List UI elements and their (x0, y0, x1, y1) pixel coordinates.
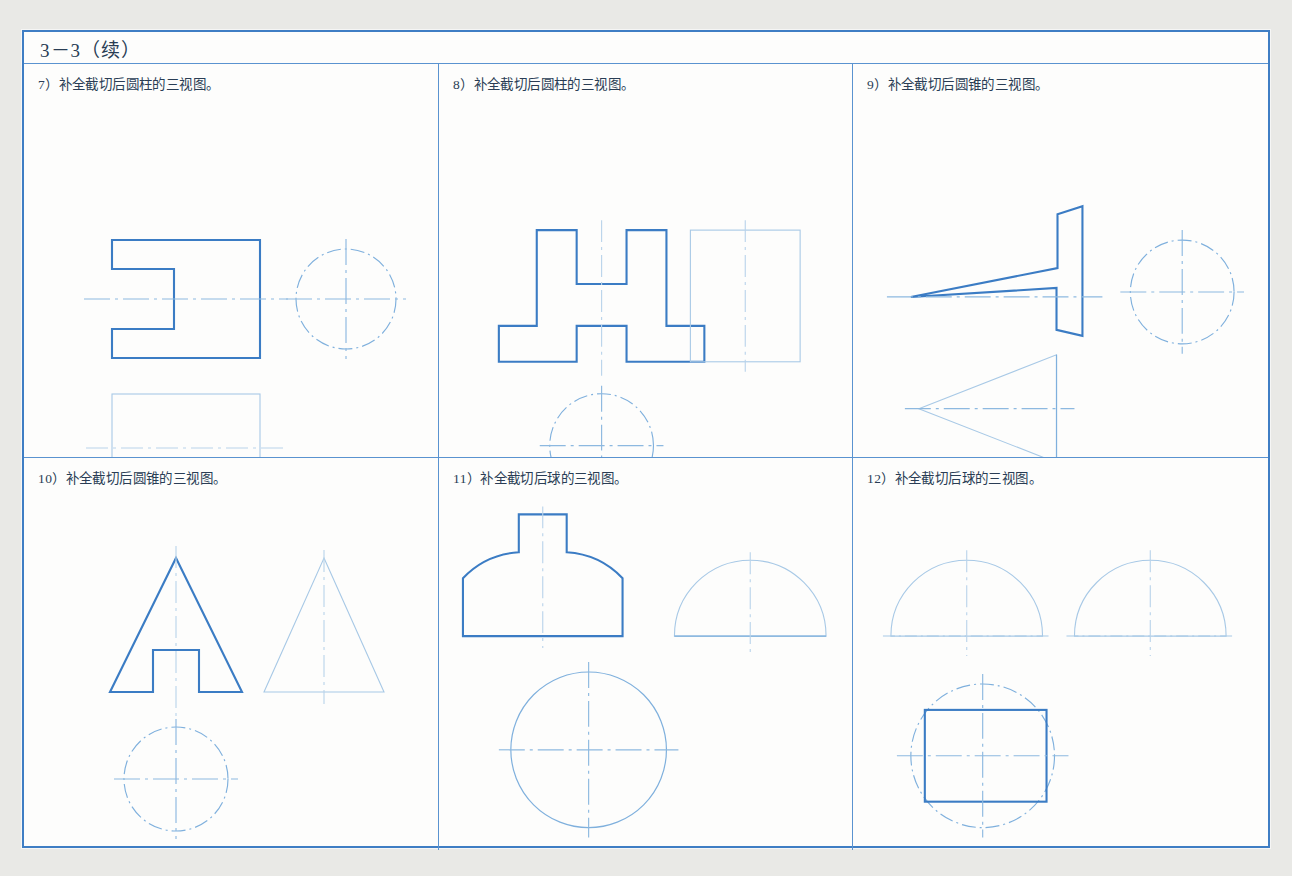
front-view-dome (883, 550, 1051, 656)
exercise-cell-12[interactable]: 12）补全截切后球的三视图。 (852, 457, 1268, 850)
worksheet-sheet: 3－3（续） 7）补全截切后圆柱的三视图。 (22, 30, 1270, 848)
front-view-cut-cone-profile (911, 206, 1083, 336)
exercise-drawing-7 (24, 94, 438, 457)
exercise-drawing-9 (853, 94, 1268, 457)
top-view-circle-with-rectangle (897, 674, 1069, 838)
exercise-label-9: 9）补全截切后圆锥的三视图。 (867, 73, 1048, 93)
top-view-rectangle (86, 394, 286, 457)
exercise-cell-9[interactable]: 9）补全截切后圆锥的三视图。 (852, 64, 1268, 457)
exercise-label-11: 11）补全截切后球的三视图。 (453, 467, 628, 487)
exercise-label-7: 7）补全截切后圆柱的三视图。 (38, 73, 219, 93)
exercise-drawing-12 (853, 488, 1268, 850)
side-view-triangle (264, 550, 384, 704)
side-view-dome (1066, 550, 1234, 656)
exercise-cell-11[interactable]: 11）补全截切后球的三视图。 (438, 457, 852, 850)
side-view-dome (674, 552, 826, 652)
exercise-cell-7[interactable]: 7）补全截切后圆柱的三视图。 (24, 64, 438, 457)
top-view-triangle (905, 355, 1075, 457)
exercise-cell-8[interactable]: 8）补全截切后圆柱的三视图。 (438, 64, 852, 457)
top-view-circle (499, 662, 679, 838)
exercise-cell-10[interactable]: 10）补全截切后圆锥的三视图。 (24, 457, 438, 850)
worksheet-title-bar: 3－3（续） (24, 32, 1268, 64)
exercise-label-12: 12）补全截切后球的三视图。 (867, 467, 1042, 487)
exercise-grid: 7）补全截切后圆柱的三视图。 (24, 64, 1268, 850)
exercise-label-8: 8）补全截切后圆柱的三视图。 (453, 73, 634, 93)
side-view-circle (286, 239, 406, 359)
exercise-drawing-8 (439, 94, 852, 457)
top-view-circle (540, 386, 664, 457)
top-view-circle (114, 719, 238, 839)
page-title: 3－3（续） (40, 35, 141, 62)
exercise-label-10: 10）补全截切后圆锥的三视图。 (38, 467, 227, 487)
side-view-circle (1120, 230, 1244, 354)
exercise-drawing-10 (24, 488, 438, 850)
side-view-rectangle (690, 220, 800, 372)
exercise-drawing-11 (439, 488, 852, 850)
